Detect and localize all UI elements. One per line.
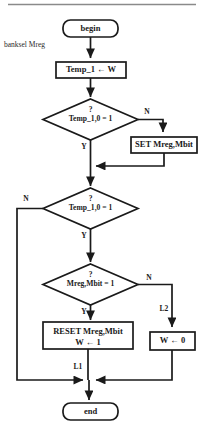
w-zero-shape	[150, 332, 195, 350]
end-shape	[63, 403, 118, 420]
set-mreg-shape	[131, 137, 197, 153]
reset-mreg-shape	[43, 322, 133, 349]
temp1-assign-shape	[56, 62, 126, 78]
begin-shape	[63, 20, 118, 37]
decision1-shape	[43, 99, 138, 140]
flowchart-graphics	[0, 0, 218, 427]
flowchart-canvas: begin banksel Mreg Temp_1 ← W ? Temp_1,0…	[0, 0, 218, 427]
decision3-shape	[43, 264, 138, 305]
decision2-shape	[43, 188, 138, 229]
